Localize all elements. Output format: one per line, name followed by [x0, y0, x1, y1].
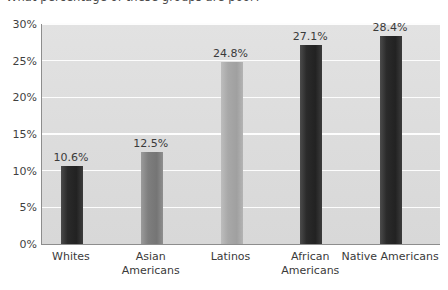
y-axis-tick-label: 10% — [13, 164, 37, 177]
y-axis-tick-label: 0% — [20, 238, 37, 251]
bar-value-label: 24.8% — [213, 47, 248, 60]
y-axis-tick-label: 5% — [20, 201, 37, 214]
bar — [141, 152, 163, 244]
y-axis-tick-label: 30% — [13, 18, 37, 31]
bar — [300, 45, 322, 244]
y-axis-tick-label: 15% — [13, 128, 37, 141]
category-label: Native Americans — [335, 250, 445, 264]
chart-title: What percentage of these groups are poor… — [6, 0, 436, 4]
bar-value-label: 27.1% — [293, 30, 328, 43]
bar-value-label: 28.4% — [373, 21, 408, 34]
y-axis: 30%25%20%15%10%5%0% — [0, 24, 37, 244]
bar — [221, 62, 243, 244]
bar — [61, 166, 83, 244]
bar-value-label: 12.5% — [133, 137, 168, 150]
y-axis-tick-label: 20% — [13, 91, 37, 104]
bar — [380, 36, 402, 244]
x-axis-line — [41, 244, 440, 246]
y-axis-tick-label: 25% — [13, 54, 37, 67]
bar-chart: What percentage of these groups are poor… — [0, 0, 448, 290]
bar-value-label: 10.6% — [53, 151, 88, 164]
